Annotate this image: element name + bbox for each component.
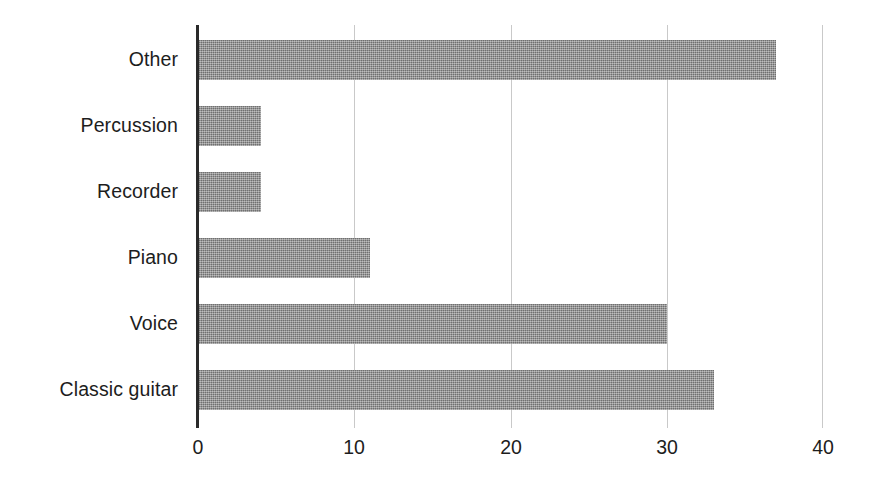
category-label-percussion: Percussion — [81, 116, 178, 136]
x-tick-label-0: 0 — [193, 438, 204, 458]
category-label-other: Other — [129, 50, 178, 70]
x-tick-label-10: 10 — [343, 438, 365, 458]
x-tick-label-40: 40 — [812, 438, 834, 458]
plot-area — [198, 25, 823, 428]
category-label-recorder: Recorder — [97, 182, 178, 202]
gridline-20 — [511, 25, 512, 428]
bar-percussion[interactable] — [198, 106, 261, 146]
category-label-piano: Piano — [128, 248, 178, 268]
gridline-40 — [822, 25, 823, 428]
category-label-voice: Voice — [130, 314, 178, 334]
bar-classic-guitar[interactable] — [198, 370, 714, 410]
x-tick-label-30: 30 — [656, 438, 678, 458]
y-axis-line — [196, 25, 199, 428]
bar-piano[interactable] — [198, 238, 370, 278]
gridline-10 — [354, 25, 355, 428]
bar-voice[interactable] — [198, 304, 667, 344]
gridline-30 — [667, 25, 668, 428]
x-tick-label-20: 20 — [500, 438, 522, 458]
category-label-classic-guitar: Classic guitar — [60, 380, 178, 400]
bar-recorder[interactable] — [198, 172, 261, 212]
bar-other[interactable] — [198, 40, 776, 80]
bar-chart: Other Percussion Recorder Piano Voice Cl… — [0, 0, 878, 500]
